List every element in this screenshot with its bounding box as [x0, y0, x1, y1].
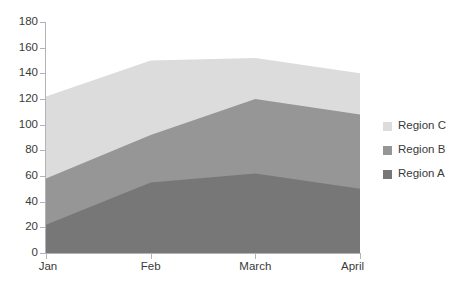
y-tick-mark	[40, 48, 45, 49]
y-tick-label: 40	[2, 196, 38, 208]
y-tick-label: 160	[2, 42, 38, 54]
y-tick-label: 180	[2, 16, 38, 28]
y-tick-mark	[40, 176, 45, 177]
legend-item[interactable]: Region B	[383, 138, 461, 162]
chart-legend: Region CRegion BRegion A	[383, 114, 461, 186]
y-tick-mark	[40, 73, 45, 74]
plot-area	[46, 22, 360, 253]
x-tick-label: Feb	[141, 261, 161, 273]
legend-item-label: Region C	[398, 120, 446, 132]
y-tick-mark	[40, 253, 45, 254]
y-tick-mark	[40, 202, 45, 203]
legend-item-label: Region A	[398, 168, 445, 180]
y-tick-mark	[40, 99, 45, 100]
area-chart: 020406080100120140160180 JanFebMarchApri…	[0, 0, 464, 293]
y-tick-label: 120	[2, 93, 38, 105]
y-tick-label: 100	[2, 119, 38, 131]
y-tick-label: 20	[2, 221, 38, 233]
y-tick-mark	[40, 150, 45, 151]
y-tick-label: 80	[2, 144, 38, 156]
y-tick-label: 140	[2, 67, 38, 79]
legend-item[interactable]: Region C	[383, 114, 461, 138]
x-tick-mark	[360, 254, 361, 259]
y-tick-mark	[40, 227, 45, 228]
x-tick-mark	[46, 254, 47, 259]
x-tick-mark	[151, 254, 152, 259]
y-tick-mark	[40, 125, 45, 126]
legend-swatch-icon	[383, 146, 392, 155]
y-tick-mark	[40, 22, 45, 23]
x-tick-label: March	[239, 261, 271, 273]
y-tick-label: 0	[2, 247, 38, 259]
legend-item[interactable]: Region A	[383, 162, 461, 186]
x-tick-label: April	[341, 261, 364, 273]
y-tick-label: 60	[2, 170, 38, 182]
legend-swatch-icon	[383, 122, 392, 131]
x-axis-line	[45, 253, 361, 254]
legend-swatch-icon	[383, 170, 392, 179]
x-tick-mark	[255, 254, 256, 259]
x-tick-label: Jan	[39, 261, 58, 273]
legend-item-label: Region B	[398, 144, 445, 156]
stacked-area-series	[46, 22, 360, 253]
